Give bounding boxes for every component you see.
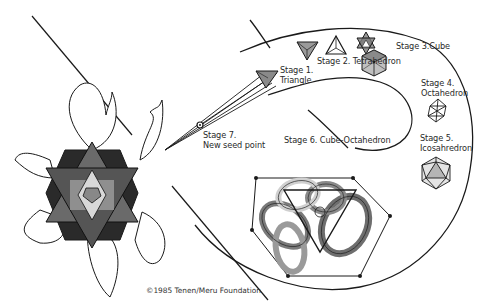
stage-7-label: Stage 7. New seed point (203, 130, 265, 150)
stage-4-name: Octahedron (421, 88, 468, 98)
tetrahedron-down-icon (297, 42, 318, 60)
flower-mandala-icon (15, 83, 165, 297)
stage-5-label: Stage 5. Icosahredron (420, 133, 472, 153)
icosahedron-icon (422, 157, 450, 189)
stage-6-label: Stage 6. Cube-Octahedron (284, 135, 391, 145)
stage-1-name: Triangle (280, 75, 313, 85)
spiral-diagram: Stage 1. Triangle Stage 2. Tetrahedron S… (0, 0, 490, 307)
stage-1-label: Stage 1. Triangle (280, 65, 313, 85)
stage-4-title: Stage 4. (421, 78, 468, 88)
stage-5-title: Stage 5. (420, 133, 472, 143)
stage-7-name: New seed point (203, 140, 265, 150)
stage-2-label: Stage 2. Tetrahedron (317, 56, 401, 66)
stage-4-label: Stage 4. Octahedron (421, 78, 468, 98)
stage-7-title: Stage 7. (203, 130, 265, 140)
octahedron-icon (428, 99, 446, 122)
stage-3-title: Stage 3.Cube (396, 41, 450, 51)
copyright-text: ©1985 Tenen/Meru Foundation (146, 286, 261, 295)
stage-5-name: Icosahredron (420, 143, 472, 153)
cube-octahedron-icon (250, 176, 392, 278)
stage-2-title: Stage 2. Tetrahedron (317, 56, 401, 66)
seed-point-icon (197, 122, 203, 128)
tetrahedron-icon (326, 36, 346, 54)
stage-3-label: Stage 3.Cube (396, 41, 450, 51)
stage-6-title: Stage 6. Cube-Octahedron (284, 135, 391, 145)
stage-1-title: Stage 1. (280, 65, 313, 75)
